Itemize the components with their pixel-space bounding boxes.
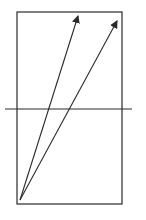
ray-diagram (0, 0, 146, 220)
